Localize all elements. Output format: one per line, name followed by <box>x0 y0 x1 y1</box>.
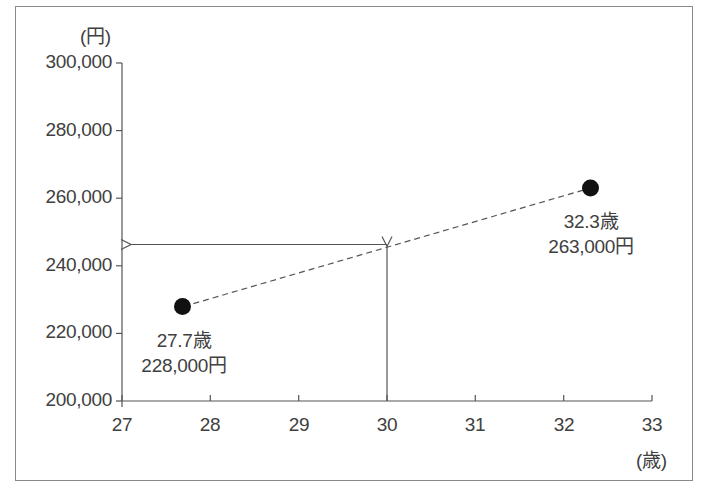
y-tick-label: 260,000 <box>45 186 112 208</box>
point-1-value: 228,000円 <box>141 353 226 378</box>
data-point-1 <box>174 298 191 315</box>
y-tick-label: 240,000 <box>45 254 112 276</box>
y-ticks <box>116 63 122 401</box>
point-1-annotation: 27.7歳 228,000円 <box>141 328 226 378</box>
point-1-age: 27.7歳 <box>141 328 226 353</box>
point-2-annotation: 32.3歳 263,000円 <box>548 209 633 259</box>
y-tick-label: 300,000 <box>45 51 112 73</box>
x-tick-label: 27 <box>112 414 133 436</box>
x-tick-label: 31 <box>465 414 486 436</box>
x-axis-unit: (歳) <box>636 445 667 472</box>
x-tick-label: 28 <box>200 414 221 436</box>
y-tick-label: 200,000 <box>45 389 112 411</box>
y-tick-label: 220,000 <box>45 321 112 343</box>
y-axis-unit: (円) <box>80 21 111 48</box>
x-tick-label: 30 <box>377 414 398 436</box>
x-tick-label: 29 <box>289 414 310 436</box>
data-point-2 <box>582 180 599 197</box>
x-tick-label: 32 <box>554 414 575 436</box>
y-tick-label: 280,000 <box>45 119 112 141</box>
point-2-age: 32.3歳 <box>548 209 633 234</box>
x-tick-label: 33 <box>642 414 663 436</box>
point-2-value: 263,000円 <box>548 234 633 259</box>
